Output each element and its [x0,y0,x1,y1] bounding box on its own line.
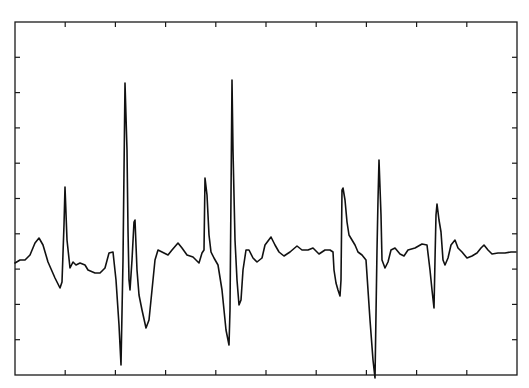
signal-chart [0,0,529,388]
axis-ticks [15,22,517,375]
signal-trace [15,80,516,378]
plot-frame [15,22,517,375]
